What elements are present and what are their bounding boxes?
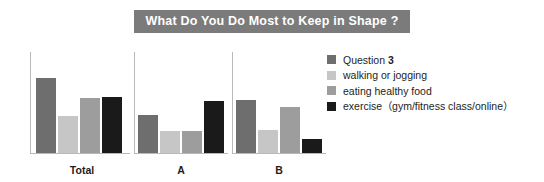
bar-total-eating-healthy-food	[80, 98, 100, 153]
legend-swatch-icon-exercise	[327, 102, 336, 111]
bar-b-eating-healthy-food	[280, 107, 300, 153]
bar-a-exercise	[204, 101, 224, 153]
bar-a-walking-or-jogging	[160, 131, 180, 153]
chart-title-container: What Do You Do Most to Keep in Shape ?	[0, 10, 544, 33]
chart-legend: Question 3 walking or jogging eating hea…	[327, 52, 544, 114]
group-label-total: Total	[36, 164, 128, 176]
axis-line-divider-2	[232, 52, 233, 153]
chart-plot-area: Total A B	[0, 46, 330, 182]
legend-item-eating-healthy-food: eating healthy food	[327, 83, 544, 99]
group-label-b: B	[236, 164, 322, 176]
legend-item-question-3: Question 3	[327, 52, 544, 68]
legend-item-walking-or-jogging: walking or jogging	[327, 68, 544, 84]
bar-set-b	[236, 53, 322, 153]
axis-line-divider-1	[134, 52, 135, 153]
bar-a-question-3	[138, 115, 158, 153]
legend-item-exercise: exercise（gym/fitness class/online）	[327, 99, 544, 115]
bar-total-walking-or-jogging	[58, 116, 78, 153]
bar-group-total: Total	[36, 53, 128, 153]
axis-line-left	[30, 52, 31, 153]
legend-label-question-3: Question 3	[343, 54, 394, 66]
bar-total-question-3	[36, 78, 56, 153]
bar-a-eating-healthy-food	[182, 131, 202, 153]
legend-swatch-icon-walking-or-jogging	[327, 71, 336, 80]
bar-total-exercise	[102, 97, 122, 153]
axis-baseline-total	[30, 153, 130, 154]
legend-label-eating-healthy-food: eating healthy food	[343, 85, 432, 97]
bar-group-a: A	[138, 53, 224, 153]
legend-swatch-icon-eating-healthy-food	[327, 86, 336, 95]
bar-set-total	[36, 53, 122, 153]
bar-b-question-3	[236, 100, 256, 153]
group-label-a: A	[138, 164, 224, 176]
bar-b-walking-or-jogging	[258, 130, 278, 153]
legend-label-exercise: exercise（gym/fitness class/online）	[343, 100, 513, 112]
legend-swatch-icon-question-3	[327, 55, 336, 64]
bar-group-b: B	[236, 53, 322, 153]
page-title: What Do You Do Most to Keep in Shape ?	[134, 10, 411, 33]
axis-baseline-b	[232, 153, 326, 154]
axis-baseline-a	[134, 153, 228, 154]
bar-set-a	[138, 53, 224, 153]
bar-b-exercise	[302, 139, 322, 153]
legend-label-walking-or-jogging: walking or jogging	[343, 69, 427, 81]
